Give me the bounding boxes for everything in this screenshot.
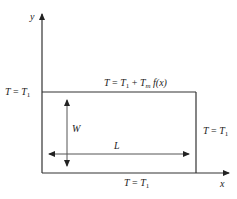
top-plus: + [129,77,140,88]
bottom-boundary-condition: T = T1 [124,178,149,190]
right-T1-sub: 1 [225,130,229,138]
bottom-eq: = [130,177,141,188]
length-label: L [114,141,120,151]
bottom-T1-sub: 1 [146,182,150,190]
diagram-canvas [0,0,237,199]
width-label: W [72,124,80,134]
left-T1-sub: 1 [27,91,31,99]
top-boundary-condition: T = T1 + Tm f(x) [104,78,167,90]
right-eq: = [209,125,220,136]
left-eq: = [11,86,22,97]
left-boundary-condition: T = T1 [5,87,30,99]
x-axis-label: x [220,179,224,189]
y-axis-label: y [30,12,34,22]
top-eq: = [110,77,121,88]
top-f: f(x) [151,77,167,88]
right-boundary-condition: T = T1 [203,126,228,138]
